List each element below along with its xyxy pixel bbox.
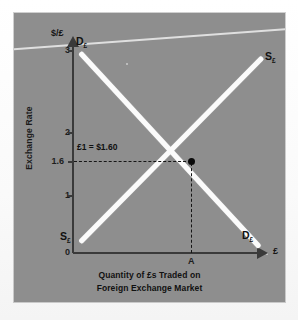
y-tick-label-0: 0: [48, 247, 70, 257]
supply-subscript: £: [67, 237, 71, 244]
equilibrium-annotation: £1 = $1.60: [77, 142, 117, 152]
y-tick-mark-1p6: [68, 161, 73, 163]
demand-letter: D: [242, 229, 250, 241]
y-tick-label-2: 2: [48, 127, 70, 137]
y-tick-mark-1: [68, 195, 73, 197]
demand-letter: D: [76, 35, 84, 47]
x-axis-line: [73, 252, 259, 254]
equilibrium-point-marker: [188, 158, 195, 165]
y-tick-mark-2: [68, 132, 73, 134]
demand-subscript: £: [84, 42, 88, 49]
y-tick-label-1p6: 1.6: [42, 156, 64, 166]
demand-curve-label-bottom: D£: [242, 229, 253, 243]
y-tick-mark-3: [68, 50, 73, 52]
x-tick-label-a: A: [188, 256, 195, 266]
supply-curve-label-bottom: S£: [60, 230, 71, 244]
y-axis-line: [72, 46, 74, 253]
page-root: $/£ Exchange Rate £ 3 2 1.6 1 0 A D£ S£ …: [0, 0, 298, 320]
supply-curve-label-top: S£: [265, 50, 276, 64]
equilibrium-vertical-dashed-line: [191, 163, 192, 253]
y-tick-label-1: 1: [48, 190, 70, 200]
y-axis-title: $/£: [51, 28, 64, 38]
supply-letter: S: [265, 50, 272, 62]
scan-artifact-speck: [126, 63, 128, 65]
demand-subscript: £: [250, 236, 254, 243]
x-axis-title: £: [273, 246, 278, 256]
supply-letter: S: [60, 230, 67, 242]
y-tick-label-3: 3: [48, 45, 70, 55]
caption-line-2: Foreign Exchange Market: [14, 282, 285, 295]
supply-subscript: £: [272, 57, 276, 64]
caption-line-1: Quantity of £s Traded on: [14, 269, 285, 282]
x-axis-arrow: [257, 247, 268, 259]
figure-caption: Quantity of £s Traded on Foreign Exchang…: [14, 269, 285, 295]
figure-panel: $/£ Exchange Rate £ 3 2 1.6 1 0 A D£ S£ …: [14, 13, 285, 302]
equilibrium-horizontal-dashed-line: [74, 161, 191, 162]
y-axis-name: Exchange Rate: [24, 98, 34, 178]
demand-curve-label-top: D£: [76, 35, 87, 49]
